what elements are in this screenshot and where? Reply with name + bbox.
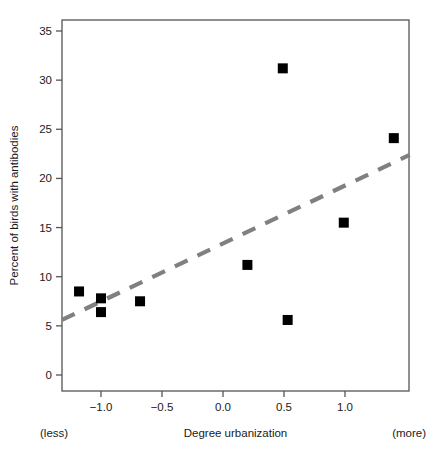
plot-canvas: 05101520253035 −1.0−0.50.00.51.0 Percent… [0, 0, 436, 452]
y-axis-title: Percent of birds with antibodies [8, 125, 20, 285]
plot-frame [62, 20, 409, 391]
x-axis-tick-label: 1.0 [337, 401, 353, 413]
x-axis-tick-label: 0.0 [215, 401, 231, 413]
x-axis-tick-label: −1.0 [90, 401, 113, 413]
data-point-marker [96, 307, 106, 317]
scatter-plot-figure: 05101520253035 −1.0−0.50.00.51.0 Percent… [0, 0, 436, 452]
y-axis-tick-label: 15 [39, 222, 52, 234]
trend-line [62, 155, 410, 320]
y-axis-tick-label: 5 [46, 320, 52, 332]
y-axis-tick-label: 30 [39, 74, 52, 86]
y-axis-tick-label: 0 [46, 369, 52, 381]
data-point-marker [74, 286, 84, 296]
x-axis: −1.0−0.50.00.51.0 [90, 391, 353, 413]
x-axis-tick-label: −0.5 [151, 401, 174, 413]
x-axis-title: Degree urbanization [184, 427, 288, 439]
annotation-less: (less) [40, 427, 68, 439]
data-point-marker [389, 133, 399, 143]
data-point-marker [242, 260, 252, 270]
trend-line-segment [62, 155, 410, 320]
axis-titles: Percent of birds with antibodiesDegree u… [8, 125, 426, 439]
y-axis-tick-label: 10 [39, 271, 52, 283]
x-axis-tick-label: 0.5 [276, 401, 292, 413]
annotation-more: (more) [392, 427, 426, 439]
data-point-marker [278, 63, 288, 73]
data-point-marker [339, 218, 349, 228]
data-point-marker [283, 315, 293, 325]
y-axis: 05101520253035 [39, 25, 62, 381]
data-point-marker [135, 296, 145, 306]
y-axis-tick-label: 35 [39, 25, 52, 37]
y-axis-tick-label: 20 [39, 172, 52, 184]
data-points [74, 63, 399, 325]
y-axis-tick-label: 25 [39, 123, 52, 135]
data-point-marker [96, 293, 106, 303]
